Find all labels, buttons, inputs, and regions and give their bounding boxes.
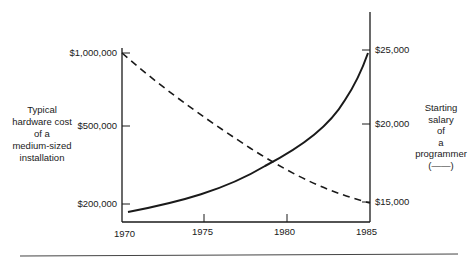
left-axis-title-line: installation xyxy=(4,152,80,164)
right-axis-title: Starting salary of a programmer (——) xyxy=(412,102,470,171)
left-tick-label: $500,000 xyxy=(77,120,117,131)
x-tick-label: 1985 xyxy=(356,226,377,237)
left-axis-title-line: hardware cost xyxy=(4,116,80,128)
right-axis-title-line: salary xyxy=(412,114,470,126)
left-tick-label: $200,000 xyxy=(77,198,117,209)
x-tick-label: 1980 xyxy=(274,226,295,237)
x-tick-label: 1975 xyxy=(192,226,213,237)
right-tick-label: $20,000 xyxy=(375,118,409,129)
right-axis-title-line: Starting xyxy=(412,102,470,114)
hardware-cost-line xyxy=(122,53,370,203)
solid-line-legend-sample: (——) xyxy=(412,160,470,172)
bottom-rule xyxy=(20,254,458,256)
left-tick-label: $1,000,000 xyxy=(69,47,117,58)
left-axis-title-line: Typical xyxy=(4,104,80,116)
programmer-salary-line xyxy=(128,53,368,212)
right-tick-label: $15,000 xyxy=(375,196,409,207)
right-axis-title-line: a xyxy=(412,137,470,149)
right-axis-title-line: programmer xyxy=(412,148,470,160)
right-axis-title-line: of xyxy=(412,125,470,137)
left-axis-title-line: of a xyxy=(4,128,80,140)
left-axis-title: Typical hardware cost of a medium-sized … xyxy=(4,104,80,164)
x-tick-label: 1970 xyxy=(114,228,135,239)
left-axis-title-line: medium-sized xyxy=(4,140,80,152)
right-tick-label: $25,000 xyxy=(375,44,409,55)
